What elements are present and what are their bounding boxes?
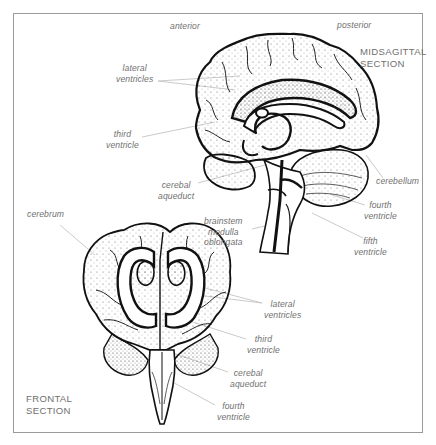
label-lateral-ventricles-frontal: lateral ventricles [264,299,301,320]
label-cerebellum: cerebellum [376,176,419,187]
label-posterior: posterior [337,20,371,31]
label-fourth-ventricle-midsagittal: fourth ventricle [364,200,397,221]
label-third-ventricle-midsagittal: third ventricle [106,129,139,150]
label-anterior: anterior [170,21,200,32]
frontal-brain [84,223,231,424]
label-cerebal-aqueduct-midsagittal: cerebal aqueduct [158,180,194,201]
label-brainstem-medulla-oblongata: brainstem medulla oblongata [204,216,243,248]
label-fifth-ventricle: fifth ventricle [354,236,387,257]
title-frontal-section: FRONTAL SECTION [26,393,72,417]
label-cerebal-aqueduct-frontal: cerebal aqueduct [230,368,266,389]
label-third-ventricle-frontal: third ventricle [247,334,280,355]
label-lateral-ventricles-midsagittal: lateral ventricles [116,63,153,84]
title-midsagittal-section: MIDSAGITTAL SECTION [360,46,427,70]
label-fourth-ventricle-frontal: fourth ventricle [217,401,250,422]
label-cerebrum: cerebrum [27,209,64,220]
